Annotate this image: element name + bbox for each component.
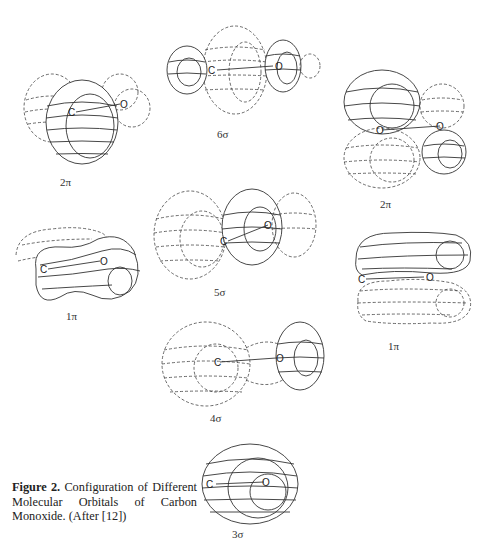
label-2pi-left: 2π xyxy=(60,176,71,188)
orbital-6sigma: C O xyxy=(165,20,325,120)
svg-text:O: O xyxy=(436,121,444,132)
svg-text:O: O xyxy=(426,272,434,283)
svg-text:O: O xyxy=(262,477,270,488)
svg-text:C: C xyxy=(358,274,365,285)
label-1pi-left: 1π xyxy=(66,310,77,322)
svg-text:O: O xyxy=(376,125,384,136)
svg-text:C: C xyxy=(68,107,75,118)
label-6sigma: 6σ xyxy=(217,128,228,140)
svg-text:O: O xyxy=(264,220,272,231)
orbital-2pi-right: O O xyxy=(340,68,470,188)
label-2pi-right: 2π xyxy=(380,198,391,210)
svg-text:C: C xyxy=(40,264,47,275)
label-3sigma: 3σ xyxy=(232,528,243,540)
orbital-4sigma: C O xyxy=(158,318,328,408)
svg-text:C: C xyxy=(220,236,227,247)
svg-text:O: O xyxy=(275,61,283,72)
label-5sigma: 5σ xyxy=(214,286,225,298)
svg-text:O: O xyxy=(276,353,284,364)
svg-text:C: C xyxy=(208,65,215,76)
orbital-5sigma: C O xyxy=(152,185,322,285)
label-4sigma: 4σ xyxy=(210,412,221,424)
orbital-2pi-left: C O xyxy=(10,60,160,170)
caption-label: Figure 2. xyxy=(12,480,60,494)
orbital-3sigma: C O xyxy=(198,440,308,530)
figure-caption: Figure 2. Configuration of Different Mol… xyxy=(12,480,197,524)
svg-text:O: O xyxy=(120,99,128,110)
svg-text:C: C xyxy=(214,357,221,368)
orbital-1pi-right: C O xyxy=(352,225,477,335)
svg-text:C: C xyxy=(206,479,213,490)
svg-text:O: O xyxy=(100,256,108,267)
label-1pi-right: 1π xyxy=(388,340,399,352)
orbital-1pi-left: C O xyxy=(12,225,142,305)
